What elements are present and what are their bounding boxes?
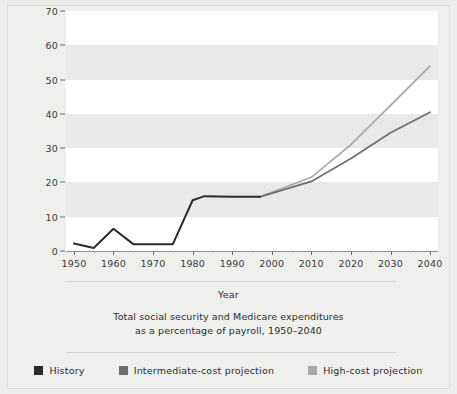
chart-legend: HistoryIntermediate-cost projectionHigh-… bbox=[0, 361, 457, 379]
legend-swatch-icon bbox=[34, 366, 43, 375]
x-axis-tick-label: 1990 bbox=[220, 258, 245, 269]
legend-swatch-icon bbox=[308, 366, 317, 375]
x-axis-minor-tick bbox=[292, 251, 293, 253]
y-axis-tick-mark bbox=[60, 113, 65, 114]
x-axis-tick-mark bbox=[311, 251, 312, 255]
x-axis-tick-label: 2040 bbox=[418, 258, 443, 269]
caption-line-2: as a percentage of payroll, 1950–2040 bbox=[0, 324, 457, 338]
y-axis-tick-mark bbox=[60, 148, 65, 149]
series-line bbox=[260, 112, 430, 197]
x-axis-tick-mark bbox=[113, 251, 114, 255]
x-axis-minor-tick bbox=[410, 251, 411, 253]
x-axis: 1950196019701980199020002010202020302040 bbox=[66, 251, 438, 273]
y-axis-tick-mark bbox=[60, 251, 65, 252]
x-axis-tick-label: 2020 bbox=[338, 258, 363, 269]
y-axis-tick-label: 30 bbox=[46, 143, 59, 154]
plot-area bbox=[66, 11, 438, 251]
y-axis-tick-mark bbox=[60, 182, 65, 183]
caption-line-1: Total social security and Medicare expen… bbox=[0, 310, 457, 324]
y-axis-tick-label: 50 bbox=[46, 74, 59, 85]
y-axis-tick-label: 60 bbox=[46, 40, 59, 51]
series-line bbox=[74, 196, 260, 248]
x-axis-minor-tick bbox=[371, 251, 372, 253]
y-axis-tick-mark bbox=[60, 45, 65, 46]
y-axis: Percentage of Taxable Payroll 0102030405… bbox=[0, 0, 66, 251]
x-axis-tick-label: 2000 bbox=[259, 258, 284, 269]
y-axis-tick-label: 40 bbox=[46, 108, 59, 119]
x-axis-tick-label: 1960 bbox=[101, 258, 126, 269]
legend-item-label: High-cost projection bbox=[323, 365, 422, 376]
x-axis-tick-label: 2030 bbox=[378, 258, 403, 269]
x-axis-tick-mark bbox=[391, 251, 392, 255]
legend-item-label: History bbox=[49, 365, 84, 376]
x-axis-tick-mark bbox=[272, 251, 273, 255]
legend-swatch-icon bbox=[119, 366, 128, 375]
figure-panel: Percentage of Taxable Payroll 0102030405… bbox=[0, 0, 457, 394]
x-axis-tick-mark bbox=[74, 251, 75, 255]
x-axis-tick-mark bbox=[232, 251, 233, 255]
y-axis-tick-mark bbox=[60, 79, 65, 80]
legend-item[interactable]: Intermediate-cost projection bbox=[119, 365, 275, 376]
figure-caption: Total social security and Medicare expen… bbox=[0, 310, 457, 338]
line-series-svg bbox=[66, 11, 438, 251]
x-axis-tick-label: 1970 bbox=[141, 258, 166, 269]
x-axis-label: Year bbox=[0, 289, 457, 300]
x-axis-tick-mark bbox=[351, 251, 352, 255]
legend-item-label: Intermediate-cost projection bbox=[134, 365, 275, 376]
y-axis-tick-label: 20 bbox=[46, 177, 59, 188]
x-axis-tick-mark bbox=[193, 251, 194, 255]
x-axis-minor-tick bbox=[331, 251, 332, 253]
series-line bbox=[260, 66, 430, 197]
legend-item[interactable]: High-cost projection bbox=[308, 365, 422, 376]
y-axis-tick-mark bbox=[60, 11, 65, 12]
x-axis-minor-tick bbox=[133, 251, 134, 253]
x-axis-tick-label: 2010 bbox=[299, 258, 324, 269]
x-axis-minor-tick bbox=[94, 251, 95, 253]
x-axis-minor-tick bbox=[173, 251, 174, 253]
y-axis-tick-label: 0 bbox=[52, 246, 58, 257]
divider-bottom bbox=[66, 352, 396, 353]
y-axis-tick-label: 10 bbox=[46, 211, 59, 222]
x-axis-tick-label: 1950 bbox=[61, 258, 86, 269]
x-axis-minor-tick bbox=[212, 251, 213, 253]
x-axis-minor-tick bbox=[252, 251, 253, 253]
y-axis-tick-mark bbox=[60, 216, 65, 217]
divider-top bbox=[66, 281, 396, 282]
x-axis-tick-mark bbox=[153, 251, 154, 255]
series-layer bbox=[66, 11, 438, 251]
x-axis-tick-label: 1980 bbox=[180, 258, 205, 269]
x-axis-tick-mark bbox=[430, 251, 431, 255]
legend-item[interactable]: History bbox=[34, 365, 84, 376]
y-axis-tick-label: 70 bbox=[46, 6, 59, 17]
